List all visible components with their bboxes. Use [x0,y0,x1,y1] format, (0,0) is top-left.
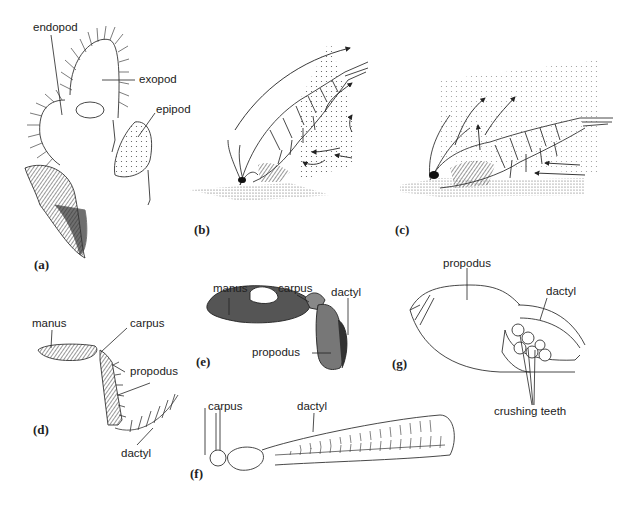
panel-marker-c: (c) [395,223,409,236]
panel-b-feeding-shrimp-drawing [190,40,368,201]
panel-marker-e: (e) [196,355,210,368]
label-a-endopod: endopod [33,22,78,34]
label-d-propodus: propodus [130,366,178,378]
panel-marker-f: (f) [190,467,203,480]
panel-marker-d: (d) [33,423,49,436]
panel-marker-b: (b) [194,223,210,236]
label-e-carpus: carpus [278,283,313,295]
figure-canvas [0,0,625,511]
panel-c-feeding-shrimp-drawing [400,60,613,197]
label-g-dactyl: dactyl [546,286,576,298]
panel-f-elongate-leg-drawing [205,408,454,470]
label-d-dactyl: dactyl [121,448,151,460]
label-e-dactyl: dactyl [331,287,361,299]
panel-a-limb-drawing [25,26,152,258]
label-d-manus: manus [32,318,67,330]
label-g-crushing-teeth: crushing teeth [494,406,566,418]
label-e-propodus: propodus [252,347,300,359]
panel-marker-g: (g) [392,357,407,370]
label-f-dactyl: dactyl [297,401,327,413]
label-e-manus: manus [213,283,248,295]
label-a-exopod: exopod [139,74,177,86]
label-a-epipod: epipod [156,104,191,116]
label-g-propodus: propodus [443,258,491,270]
panel-g-crushing-claw-drawing [410,285,585,372]
panel-d-raptorial-leg-drawing [38,344,178,432]
panel-marker-a: (a) [34,258,49,271]
label-f-carpus: carpus [208,401,243,413]
label-d-carpus: carpus [130,318,165,330]
